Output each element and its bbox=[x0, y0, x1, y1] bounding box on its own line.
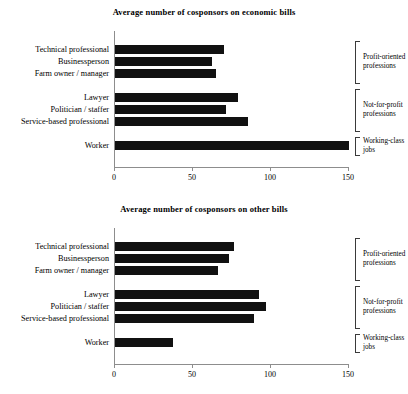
group-label-line: Not-for-profit bbox=[363, 298, 403, 307]
bar bbox=[115, 290, 259, 299]
y-axis-category-label: Businessperson bbox=[58, 57, 109, 66]
chart-panel-other-bills: Average number of cosponsors on other bi… bbox=[0, 197, 408, 394]
y-axis-category-label: Farm owner / manager bbox=[35, 69, 109, 78]
group-bracket bbox=[355, 238, 360, 281]
y-axis-category-label: Service-based professional bbox=[21, 117, 109, 126]
y-axis-category-label: Lawyer bbox=[84, 93, 109, 102]
group-label-line: jobs bbox=[363, 146, 404, 155]
group-bracket bbox=[355, 286, 360, 329]
x-axis-line bbox=[114, 364, 348, 365]
x-axis-tick-label: 100 bbox=[264, 370, 276, 379]
bar bbox=[115, 254, 229, 263]
group-label: Not-for-profitprofessions bbox=[363, 298, 403, 316]
x-axis-tick-label: 0 bbox=[112, 370, 116, 379]
x-axis-tick bbox=[348, 167, 349, 171]
group-label-line: Profit-oriented bbox=[363, 250, 405, 259]
group-label-line: Not-for-profit bbox=[363, 101, 403, 110]
x-axis-tick bbox=[192, 167, 193, 171]
group-label-line: jobs bbox=[363, 343, 404, 352]
y-axis-category-label: Technical professional bbox=[35, 242, 109, 251]
group-label-line: professions bbox=[363, 62, 405, 71]
x-axis-tick-label: 50 bbox=[188, 370, 196, 379]
bar bbox=[115, 57, 212, 66]
bar bbox=[115, 141, 349, 150]
chart-panel-economic-bills: Average number of cosponsors on economic… bbox=[0, 0, 408, 197]
plot-area-other-bills: 050100150 bbox=[114, 228, 348, 364]
y-axis-category-label: Businessperson bbox=[58, 254, 109, 263]
group-bracket bbox=[355, 41, 360, 84]
y-axis-category-label: Service-based professional bbox=[21, 314, 109, 323]
x-axis-tick bbox=[348, 364, 349, 368]
group-label-line: professions bbox=[363, 259, 405, 268]
group-label-line: Profit-oriented bbox=[363, 53, 405, 62]
bar bbox=[115, 338, 173, 347]
x-axis-tick-label: 50 bbox=[188, 173, 196, 182]
group-label: Working-classjobs bbox=[363, 137, 404, 155]
y-axis-category-label: Politician / staffer bbox=[50, 105, 109, 114]
x-axis-tick bbox=[192, 364, 193, 368]
bar bbox=[115, 117, 248, 126]
x-axis-tick bbox=[114, 167, 115, 171]
y-axis-category-label: Worker bbox=[85, 338, 109, 347]
bar bbox=[115, 105, 226, 114]
group-label: Profit-orientedprofessions bbox=[363, 53, 405, 71]
y-axis-category-label: Lawyer bbox=[84, 290, 109, 299]
x-axis-tick-label: 100 bbox=[264, 173, 276, 182]
group-label: Not-for-profitprofessions bbox=[363, 101, 403, 119]
x-axis-tick bbox=[270, 167, 271, 171]
group-label-line: Working-class bbox=[363, 137, 404, 146]
bar bbox=[115, 314, 254, 323]
x-axis-line bbox=[114, 167, 348, 168]
bar bbox=[115, 242, 234, 251]
group-label-line: professions bbox=[363, 110, 403, 119]
bar bbox=[115, 266, 218, 275]
group-label-line: professions bbox=[363, 307, 403, 316]
plot-area-economic-bills: 050100150 bbox=[114, 31, 348, 167]
group-label-line: Working-class bbox=[363, 334, 404, 343]
x-axis-tick bbox=[114, 364, 115, 368]
bar bbox=[115, 302, 266, 311]
chart-title: Average number of cosponsors on economic… bbox=[0, 7, 408, 17]
group-bracket bbox=[355, 89, 360, 132]
bar bbox=[115, 45, 224, 54]
y-axis-category-label: Technical professional bbox=[35, 45, 109, 54]
y-axis-category-label: Farm owner / manager bbox=[35, 266, 109, 275]
bar bbox=[115, 93, 238, 102]
x-axis-tick-label: 0 bbox=[112, 173, 116, 182]
group-bracket bbox=[355, 334, 360, 353]
x-axis-tick bbox=[270, 364, 271, 368]
chart-title: Average number of cosponsors on other bi… bbox=[0, 204, 408, 214]
y-axis-category-label: Worker bbox=[85, 141, 109, 150]
group-bracket bbox=[355, 137, 360, 156]
figure-container: Average number of cosponsors on economic… bbox=[0, 0, 408, 394]
bar bbox=[115, 69, 216, 78]
y-axis-category-label: Politician / staffer bbox=[50, 302, 109, 311]
group-label: Profit-orientedprofessions bbox=[363, 250, 405, 268]
x-axis-tick-label: 150 bbox=[342, 173, 354, 182]
x-axis-tick-label: 150 bbox=[342, 370, 354, 379]
group-label: Working-classjobs bbox=[363, 334, 404, 352]
